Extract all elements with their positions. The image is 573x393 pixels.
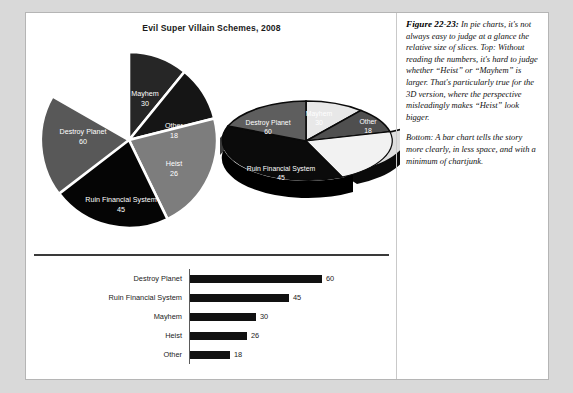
bar-fill [190, 351, 230, 359]
bar-label: Other [34, 350, 189, 359]
bar-fill [190, 294, 289, 302]
bar-row: Other 18 [34, 345, 389, 364]
bar-track: 30 [189, 307, 389, 326]
bar-fill [190, 332, 247, 340]
pie2d-label-mayhem-value: 30 [141, 99, 149, 108]
pie3d-label-destroy-name: Destroy Planet [245, 119, 290, 127]
pie3d-label-ruin-value: 45 [277, 174, 285, 181]
caption-paragraph-1: Figure 22-23: In pie charts, it's not al… [406, 19, 540, 123]
bar-chart: Destroy Planet 60 Ruin Financial System … [34, 269, 389, 369]
pie3d-label-other-name: Other [359, 118, 377, 125]
bar-track: 45 [189, 288, 389, 307]
bar-label: Ruin Financial System [34, 293, 189, 302]
bar-track: 26 [189, 326, 389, 345]
pie3d-body: Mayhem 30 Other 18 Destroy Planet 60 Rui… [220, 101, 392, 198]
pie2d-label-other-value: 18 [170, 131, 178, 140]
bar-fill [190, 313, 256, 321]
charts-column: Evil Super Villain Schemes, 2008 Destroy… [26, 13, 397, 379]
bar-fill [190, 275, 322, 283]
pie2d-label-mayhem-name: Mayhem [131, 89, 159, 98]
bar-row: Destroy Planet 60 [34, 269, 389, 288]
pie3d-label-mayhem-value: 30 [315, 119, 323, 126]
bar-label: Mayhem [34, 312, 189, 321]
pie3d-label-mayhem-name: Mayhem [306, 110, 333, 118]
bar-row: Heist 26 [34, 326, 389, 345]
figure-page: Evil Super Villain Schemes, 2008 Destroy… [25, 12, 549, 380]
bar-label: Destroy Planet [34, 274, 189, 283]
bar-value: 45 [293, 293, 301, 302]
bar-track: 60 [189, 269, 389, 288]
pie-3d-svg: Heist 26 [202, 45, 400, 241]
caption-column: Figure 22-23: In pie charts, it's not al… [398, 13, 549, 379]
pie3d-label-ruin-name: Ruin Financial System [247, 165, 316, 173]
bar-track: 18 [189, 345, 389, 364]
bar-value: 30 [260, 312, 268, 321]
pie-chart-3d: Heist 26 [202, 45, 400, 241]
bar-row: Mayhem 30 [34, 307, 389, 326]
pie-2d-svg: Destroy Planet 60 Mayhem 30 Other 18 Hei… [42, 45, 217, 235]
caption-paragraph-2: Bottom: A bar chart tells the story more… [406, 132, 540, 167]
bar-value: 18 [234, 350, 242, 359]
pie2d-label-destroy-planet-value: 60 [79, 137, 87, 146]
figure-number-label: Figure 22-23: [406, 19, 459, 29]
pie2d-label-ruin-value: 45 [117, 205, 125, 214]
pie2d-label-heist-name: Heist [166, 159, 182, 168]
figure-caption: Figure 22-23: In pie charts, it's not al… [406, 19, 540, 167]
bar-value: 60 [326, 274, 334, 283]
chart-title: Evil Super Villain Schemes, 2008 [26, 23, 397, 33]
pie2d-label-ruin-name: Ruin Financial System [85, 195, 157, 204]
pie-chart-2d: Destroy Planet 60 Mayhem 30 Other 18 Hei… [42, 45, 217, 235]
pie2d-label-other-name: Other [165, 121, 184, 130]
pie3d-label-destroy-value: 60 [264, 128, 272, 135]
caption-text-1: In pie charts, it's not always easy to j… [406, 19, 538, 122]
section-divider [34, 254, 389, 256]
bar-row: Ruin Financial System 45 [34, 288, 389, 307]
bar-label: Heist [34, 331, 189, 340]
pie2d-label-destroy-planet-name: Destroy Planet [59, 127, 106, 136]
pie3d-label-other-value: 18 [364, 127, 372, 134]
pie2d-label-heist-value: 26 [170, 169, 178, 178]
column-divider [396, 13, 397, 379]
bar-value: 26 [251, 331, 259, 340]
